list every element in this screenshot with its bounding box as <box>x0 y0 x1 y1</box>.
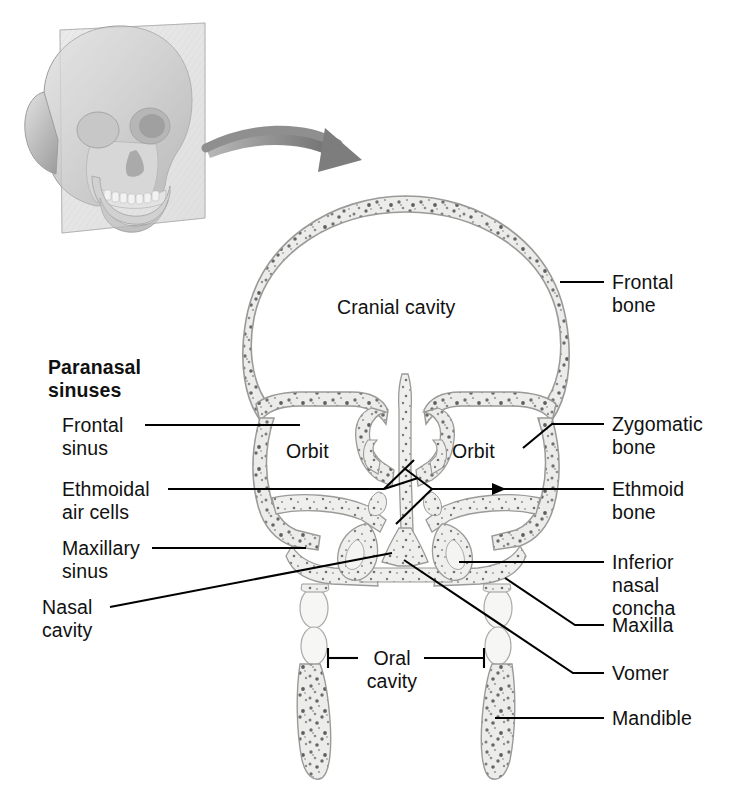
label-orbit-right: Orbit <box>452 440 495 463</box>
label-maxillary-sinus: Maxillary sinus <box>62 537 140 583</box>
figure-canvas: Paranasal sinuses Frontal sinus Ethmoida… <box>0 0 741 792</box>
label-inferior-nasal-concha: Inferior nasal concha <box>612 551 675 620</box>
label-orbit-left: Orbit <box>286 440 329 463</box>
label-cranial-cavity: Cranial cavity <box>337 296 455 319</box>
label-ethmoidal-air-cells: Ethmoidal air cells <box>62 478 150 524</box>
label-mandible: Mandible <box>612 707 692 730</box>
label-maxilla: Maxilla <box>612 614 673 637</box>
label-frontal-bone: Frontal bone <box>612 271 673 317</box>
label-oral-cavity: Oral cavity <box>358 647 426 693</box>
label-vomer: Vomer <box>612 662 669 685</box>
label-ethmoid-bone: Ethmoid bone <box>612 478 684 524</box>
label-frontal-sinus: Frontal sinus <box>62 414 123 460</box>
paranasal-sinuses-heading: Paranasal sinuses <box>48 356 141 402</box>
ethmoid-arrowhead <box>492 483 506 495</box>
leader-zygomatic-bone <box>523 424 604 448</box>
label-nasal-cavity: Nasal cavity <box>42 596 92 642</box>
leader-maxilla <box>505 578 604 625</box>
label-zygomatic-bone: Zygomatic bone <box>612 413 703 459</box>
sectioning-plane-front <box>60 23 205 233</box>
direction-arrow <box>206 128 362 172</box>
